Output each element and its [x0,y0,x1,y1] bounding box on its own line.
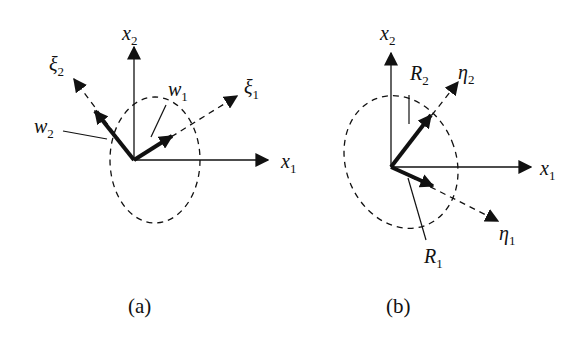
xi2-label: ξ2 [49,53,64,79]
x2-label: x2 [379,22,395,48]
diagram-canvas: x2 x1 ξ2 ξ1 w1 w2 (a) x2 x1 η2 η1 R2 R1 … [0,0,584,341]
x1-label: x1 [280,150,296,176]
panel-a: x2 x1 ξ2 ξ1 w1 w2 (a) [34,22,296,318]
eta1-label: η1 [499,222,515,248]
w2-vector [95,111,134,160]
uncertainty-ellipse [325,78,478,245]
x1-label: x1 [539,157,555,183]
w1-label: w1 [168,78,188,104]
caption-a: (a) [128,294,151,318]
w2-label: w2 [34,115,54,141]
R2-label: R2 [409,62,429,88]
R1-leader [408,178,426,240]
x2-label: x2 [121,22,137,48]
caption-b: (b) [386,294,411,318]
panel-b: x2 x1 η2 η1 R2 R1 (b) [325,22,556,318]
R2-vector [391,115,431,167]
w1-leader [151,105,166,137]
w2-leader [63,131,107,139]
R1-label: R1 [423,245,443,271]
xi1-label: ξ1 [244,76,259,102]
w1-vector [134,136,172,160]
R1-vector [391,167,433,186]
eta2-label: η2 [458,61,474,87]
